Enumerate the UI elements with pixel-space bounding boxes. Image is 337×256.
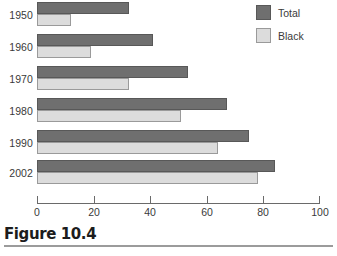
bar-total-1970 <box>37 66 188 78</box>
x-tick-60 <box>207 196 208 204</box>
x-tick-100 <box>319 196 320 204</box>
category-label-1960: 1960 <box>0 41 33 53</box>
bar-black-1970 <box>37 78 129 90</box>
category-label-1980: 1980 <box>0 105 33 117</box>
bar-group-2002: 2002 <box>0 160 337 186</box>
x-tick-label-80: 80 <box>257 206 269 218</box>
category-label-1950: 1950 <box>0 9 33 21</box>
bars-2002 <box>37 160 337 186</box>
legend-item-black: Black <box>256 25 336 46</box>
x-tick-80 <box>263 196 264 204</box>
x-axis-line <box>37 203 320 204</box>
x-tick-label-60: 60 <box>201 206 213 218</box>
bar-group-1980: 1980 <box>0 98 337 124</box>
legend-item-total: Total <box>256 2 336 23</box>
x-tick-20 <box>94 196 95 204</box>
bar-total-1960 <box>37 34 153 46</box>
x-tick-label-100: 100 <box>311 206 329 218</box>
caption-divider <box>4 245 333 247</box>
bar-total-1950 <box>37 2 129 14</box>
x-tick-label-20: 20 <box>88 206 100 218</box>
x-tick-label-0: 0 <box>34 206 40 218</box>
bar-total-2002 <box>37 160 275 172</box>
chart-plot-area: 195019601970198019902002 Total Black <box>0 0 337 192</box>
chart-legend: Total Black <box>256 2 336 48</box>
figure-10-4: 195019601970198019902002 Total Black 020… <box>0 0 337 256</box>
bar-black-1980 <box>37 110 181 122</box>
black-swatch-icon <box>256 28 271 43</box>
bar-total-1980 <box>37 98 227 110</box>
x-tick-label-40: 40 <box>144 206 156 218</box>
bar-black-1960 <box>37 46 91 58</box>
figure-caption-block: Figure 10.4 <box>4 226 333 247</box>
bars-1980 <box>37 98 337 124</box>
bar-black-1950 <box>37 14 71 26</box>
bar-black-1990 <box>37 142 218 154</box>
category-label-1990: 1990 <box>0 137 33 149</box>
total-swatch-icon <box>256 5 271 20</box>
category-label-1970: 1970 <box>0 73 33 85</box>
bar-group-1990: 1990 <box>0 130 337 156</box>
bar-total-1990 <box>37 130 249 142</box>
figure-caption: Figure 10.4 <box>4 226 333 243</box>
x-tick-40 <box>150 196 151 204</box>
x-axis-tick-labels: 020406080100 <box>37 206 320 220</box>
legend-label-total: Total <box>278 7 300 19</box>
x-tick-0 <box>37 196 38 204</box>
x-axis <box>37 196 320 204</box>
bar-group-1970: 1970 <box>0 66 337 92</box>
category-label-2002: 2002 <box>0 167 33 179</box>
bars-1970 <box>37 66 337 92</box>
legend-label-black: Black <box>278 30 304 42</box>
bar-black-2002 <box>37 172 258 184</box>
bars-1990 <box>37 130 337 156</box>
